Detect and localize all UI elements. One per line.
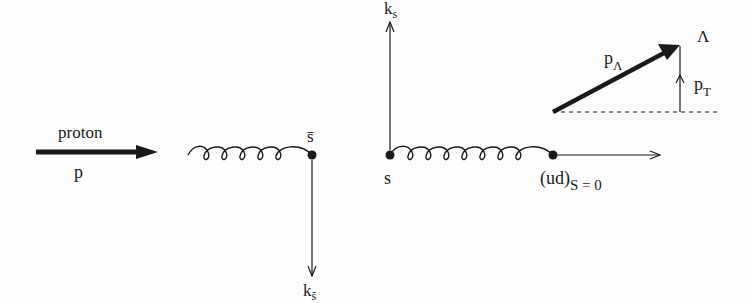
left-gluon <box>188 146 312 159</box>
diquark-dot <box>549 151 558 160</box>
p-lambda-arrow <box>553 44 680 112</box>
k-s-label: ks <box>384 0 398 21</box>
sbar-quark-label: s̄ <box>307 127 314 146</box>
diagram-canvas: proton p s̄ ks̄ ks s (ud)S = 0 Λ pΛ pT <box>0 0 751 303</box>
p-lambda-label: pΛ <box>604 48 623 73</box>
pt-label: pT <box>694 74 711 99</box>
proton-momentum-label: p <box>74 162 83 182</box>
lambda-label: Λ <box>697 27 710 46</box>
k-sbar-label: ks̄ <box>303 281 317 303</box>
s-quark-label: s <box>384 168 391 188</box>
proton-arrow <box>36 145 158 159</box>
proton-label: proton <box>58 123 103 142</box>
sbar-quark-dot <box>308 151 317 160</box>
right-gluon <box>390 146 553 159</box>
diquark-label: (ud)S = 0 <box>540 168 602 193</box>
